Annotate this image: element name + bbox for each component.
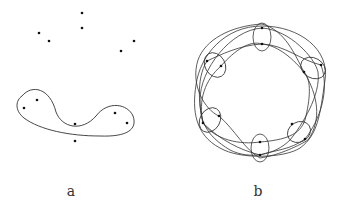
vertex-dot	[261, 27, 264, 30]
vertex-dot	[261, 43, 264, 46]
hyperedge-ellipse	[195, 104, 225, 137]
vertex-dot	[291, 123, 294, 126]
panel-label-a: a	[67, 183, 75, 199]
vertex-dot	[304, 138, 307, 141]
vertex-dot	[206, 60, 209, 63]
vertex-dot	[23, 107, 26, 110]
vertex-dot	[74, 123, 77, 126]
vertex-dot	[133, 40, 136, 43]
vertex-dot	[220, 65, 223, 68]
vertex-dot	[202, 122, 205, 125]
hyperedge-curve	[17, 89, 134, 136]
vertex-dot	[36, 99, 39, 102]
hyperedge-ellipse	[200, 49, 230, 82]
vertex-dot	[81, 27, 84, 30]
vertex-dot	[259, 154, 262, 157]
vertex-dot	[114, 112, 117, 115]
vertex-dot	[120, 50, 123, 53]
vertex-dot	[81, 12, 84, 15]
vertex-dot	[303, 71, 306, 74]
vertex-dot	[259, 141, 262, 144]
diagram-canvas	[0, 0, 344, 215]
hyperedge-loop	[199, 44, 309, 143]
vertex-dot	[74, 140, 77, 143]
vertex-dot	[48, 40, 51, 43]
vertex-dot	[126, 122, 129, 125]
vertex-dot	[38, 32, 41, 35]
vertex-dot	[218, 115, 221, 118]
panel-label-b: b	[254, 183, 263, 199]
hyperedge-loop	[195, 26, 326, 156]
vertex-dot	[320, 64, 323, 67]
